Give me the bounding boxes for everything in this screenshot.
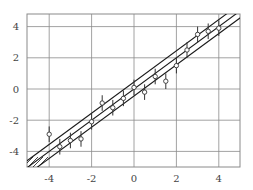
open-circle-marker [68, 138, 72, 142]
x-tick-label: -4 [44, 173, 54, 184]
open-circle-marker [58, 145, 62, 149]
data-point [217, 20, 221, 36]
hatch-line [23, 157, 33, 167]
open-circle-marker [153, 74, 157, 78]
y-axis-tick-labels: -4-2024 [9, 21, 19, 157]
y-tick-label: 2 [13, 52, 19, 63]
x-tick-label: 4 [216, 173, 222, 184]
open-circle-marker [100, 101, 104, 105]
x-tick-label: 2 [173, 173, 179, 184]
open-circle-marker [79, 137, 83, 141]
x-tick-label: -2 [87, 173, 97, 184]
x-tick-label: 0 [131, 173, 137, 184]
open-circle-marker [47, 132, 51, 136]
data-point [174, 58, 178, 74]
open-circle-marker [121, 96, 125, 100]
x-axis-tick-labels: -4-2024 [44, 173, 222, 184]
open-circle-marker [142, 90, 146, 94]
data-point [132, 80, 136, 96]
open-circle-marker [195, 32, 199, 36]
y-tick-label: -2 [9, 115, 19, 126]
y-tick-label: 0 [13, 84, 19, 95]
open-circle-marker [111, 106, 115, 110]
data-point [89, 114, 93, 130]
open-circle-marker [164, 79, 168, 83]
y-tick-label: -4 [9, 146, 19, 157]
data-point [47, 126, 51, 142]
data-point [195, 27, 199, 43]
open-circle-marker [174, 63, 178, 67]
open-circle-marker [132, 85, 136, 89]
data-point [164, 73, 168, 89]
open-circle-marker [89, 120, 93, 124]
open-circle-marker [185, 48, 189, 52]
data-point [100, 95, 104, 111]
chart: -4-2024 -4-2024 [0, 0, 253, 190]
data-point [121, 91, 125, 107]
open-circle-marker [206, 29, 210, 33]
open-circle-marker [217, 26, 221, 30]
y-tick-label: 4 [13, 21, 19, 32]
